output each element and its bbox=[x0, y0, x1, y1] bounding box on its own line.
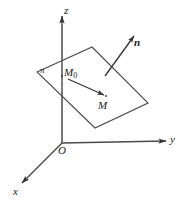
point-m0-marker bbox=[61, 75, 63, 77]
y-axis-label: y bbox=[170, 134, 175, 145]
z-axis-label: z bbox=[64, 5, 68, 16]
math-figure-plane-normal-vector: z y x O π M0 M n bbox=[0, 0, 186, 202]
point-m-label: M bbox=[98, 100, 107, 111]
point-m0-label: M0 bbox=[64, 67, 77, 80]
plane-parallelogram bbox=[37, 47, 148, 128]
normal-vector-label: n bbox=[134, 37, 140, 48]
plane-label: π bbox=[40, 66, 45, 75]
m0-to-m-vector-arrow bbox=[68, 79, 104, 95]
point-m0-subscript: 0 bbox=[73, 71, 77, 80]
origin-label: O bbox=[58, 145, 66, 156]
point-m-marker bbox=[105, 95, 107, 97]
x-axis-line bbox=[22, 143, 62, 183]
figure-canvas bbox=[0, 0, 186, 202]
point-m0-letter: M bbox=[64, 66, 73, 78]
x-axis-label: x bbox=[13, 186, 18, 197]
y-axis-line bbox=[62, 141, 166, 143]
normal-vector-arrow bbox=[105, 36, 134, 76]
